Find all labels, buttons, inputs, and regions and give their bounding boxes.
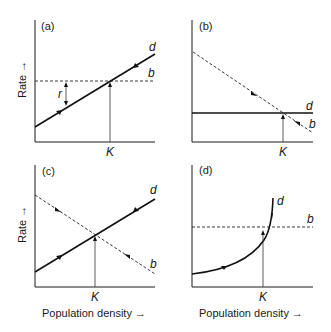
x-axis-label: Population density → <box>42 307 146 319</box>
arrow-icon <box>251 91 257 96</box>
arrow-up-icon <box>261 230 265 235</box>
curve-label-d: d <box>149 40 156 54</box>
panel-label: (b) <box>199 20 212 32</box>
k-label: K <box>91 290 100 304</box>
curve-label-d: d <box>277 194 284 208</box>
arrow-icon <box>294 121 300 126</box>
r-label: r <box>58 87 63 101</box>
curve-label-b: b <box>309 117 316 131</box>
figure-canvas: (a) b d r K Rate → (b) d b <box>0 0 331 332</box>
panel-a: (a) b d r K Rate → <box>16 20 156 159</box>
death-rate-line <box>35 54 155 127</box>
panel-label: (c) <box>42 165 55 177</box>
panel-b: (b) d b K <box>192 20 316 159</box>
curve-label-d: d <box>150 183 157 197</box>
arrow-up-icon <box>64 82 68 87</box>
death-rate-curve <box>192 198 273 274</box>
x-axis-label: Population density → <box>199 307 303 319</box>
y-axis-label: Rate → <box>16 61 28 98</box>
panel-label: (d) <box>199 164 212 176</box>
arrow-up-icon <box>281 114 285 119</box>
arrow-down-icon <box>64 101 68 106</box>
panel-c: (c) b d K Rate → Population density → <box>16 165 157 319</box>
curve-label-b: b <box>307 212 314 226</box>
k-label: K <box>259 290 268 304</box>
birth-rate-line <box>193 52 313 133</box>
y-axis-label: Rate → <box>16 206 28 243</box>
k-label: K <box>106 145 115 159</box>
panel-d: (d) b d K Population density → <box>192 164 314 319</box>
curve-label-b: b <box>148 66 155 80</box>
panel-label: (a) <box>41 20 54 32</box>
arrow-icon <box>55 207 61 212</box>
arrow-icon <box>124 254 130 259</box>
curve-label-b: b <box>150 257 157 271</box>
curve-label-d: d <box>306 99 313 113</box>
k-label: K <box>279 145 288 159</box>
